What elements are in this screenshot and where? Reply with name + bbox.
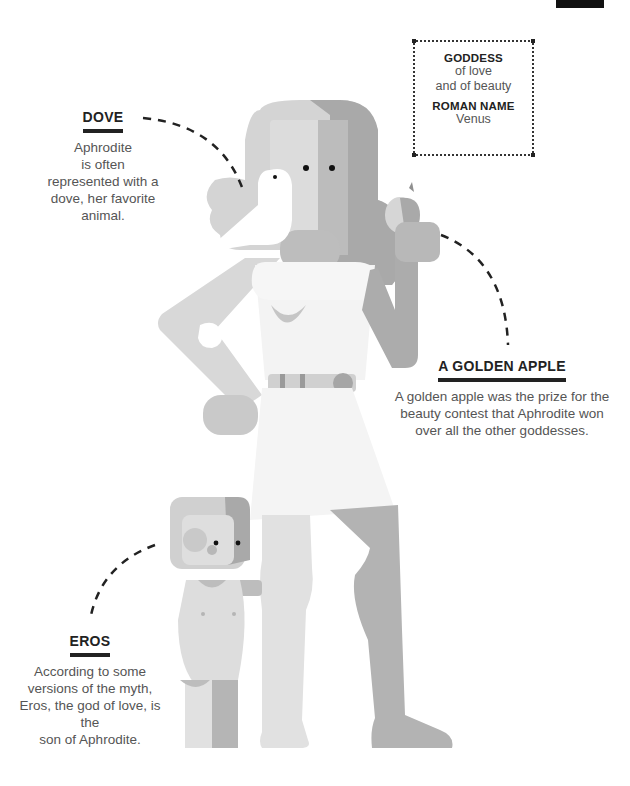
text-line: represented with a [28, 173, 178, 190]
eros-connector [90, 545, 155, 620]
apple-description: A golden apple was the prize for the bea… [372, 388, 630, 439]
text-line: animal. [28, 207, 178, 224]
dove-description: Aphrodite is often represented with a do… [28, 139, 178, 224]
dove-label: DOVE Aphrodite is often represented with… [28, 108, 178, 224]
apple-title: A GOLDEN APPLE [438, 358, 566, 382]
text-line: Eros, the god of love, is the [10, 697, 170, 731]
roman-name-value: Venus [415, 112, 532, 127]
text-line: son of Aphrodite. [10, 731, 170, 748]
text-line: Aphrodite [28, 139, 178, 156]
box-corner [531, 153, 535, 157]
goddess-line-1: of love [415, 64, 532, 79]
eros [170, 497, 262, 748]
text-line: According to some [10, 663, 170, 680]
text-line: beauty contest that Aphrodite won [372, 405, 630, 422]
box-corner [412, 153, 416, 157]
eros-label: EROS According to some versions of the m… [10, 632, 170, 748]
eros-title: EROS [70, 633, 111, 657]
apple-connector [441, 235, 508, 345]
text-line: A golden apple was the prize for the [372, 388, 630, 405]
box-corner [531, 39, 535, 43]
box-corner [412, 39, 416, 43]
goddess-heading: GODDESS [415, 52, 532, 64]
info-box: GODDESS of love and of beauty ROMAN NAME… [413, 40, 534, 156]
text-line: dove, her favorite [28, 190, 178, 207]
text-line: versions of the myth, [10, 680, 170, 697]
roman-name-heading: ROMAN NAME [415, 100, 532, 112]
goddess-line-2: and of beauty [415, 79, 532, 94]
text-line: is often [28, 156, 178, 173]
text-line: over all the other goddesses. [372, 422, 630, 439]
eros-description: According to some versions of the myth, … [10, 663, 170, 748]
legs [260, 505, 453, 748]
dove-title: DOVE [83, 109, 124, 133]
apple-label: A GOLDEN APPLE A golden apple was the pr… [372, 357, 630, 439]
torso [252, 262, 378, 380]
